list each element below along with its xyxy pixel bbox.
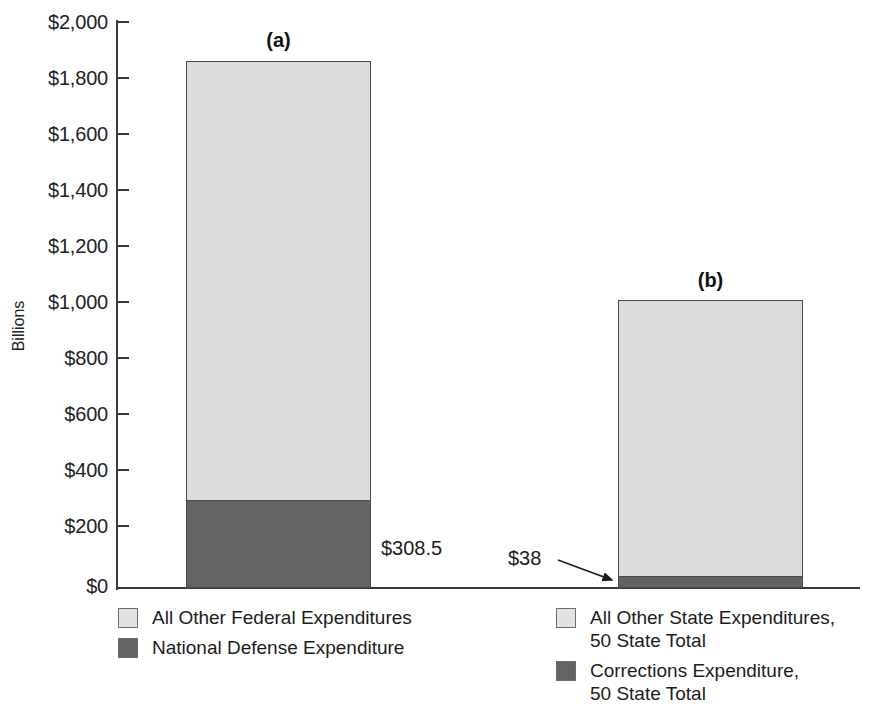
y-axis-line [116,20,118,590]
legend-swatch-light-icon [556,608,576,628]
bar-a-light-segment[interactable] [186,61,371,501]
y-tick-group-1400: $1,400 [0,180,108,200]
legend-item-all-other-federal[interactable]: All Other Federal Expenditures [118,606,518,629]
bar-a-value-label: $308.5 [381,538,442,558]
y-tick-group-2000: $2,000 [0,12,108,32]
y-tick-mark-200 [118,525,129,527]
y-tick-mark-1800 [118,77,129,79]
y-tick-label-1400: $1,400 [8,180,108,200]
legend-item-corrections[interactable]: Corrections Expenditure, 50 State Total [556,659,866,705]
legend-swatch-dark-icon [556,661,576,681]
legend-swatch-dark-icon [118,638,138,658]
bar-a-caption: (a) [186,30,371,50]
y-tick-group-1000: $1,000 [0,292,108,312]
y-tick-mark-2000 [118,21,129,23]
y-tick-label-200: $200 [8,516,108,536]
legend-label-all-other-state: All Other State Expenditures, 50 State T… [590,606,835,652]
y-tick-group-600: $600 [0,404,108,424]
y-tick-group-1800: $1,800 [0,68,108,88]
bar-b-dark-segment[interactable] [618,576,803,588]
chart-figure: Billions $2,000 $1,800 $1,600 $1,400 $1,… [0,0,872,719]
y-tick-mark-1400 [118,189,129,191]
y-tick-group-400: $400 [0,460,108,480]
y-tick-label-1800: $1,800 [8,68,108,88]
y-tick-label-600: $600 [8,404,108,424]
y-tick-group-1200: $1,200 [0,236,108,256]
y-tick-label-800: $800 [8,348,108,368]
legend-label-corrections: Corrections Expenditure, 50 State Total [590,659,799,705]
legend-state: All Other State Expenditures, 50 State T… [556,606,866,712]
y-tick-group-1600: $1,600 [0,124,108,144]
legend-label-national-defense: National Defense Expenditure [152,636,404,659]
bar-a-dark-segment[interactable] [186,500,371,588]
y-tick-label-1000: $1,000 [8,292,108,312]
y-tick-mark-1200 [118,245,129,247]
legend-item-national-defense[interactable]: National Defense Expenditure [118,636,518,659]
y-tick-label-400: $400 [8,460,108,480]
legend-label-all-other-federal: All Other Federal Expenditures [152,606,412,629]
y-tick-mark-800 [118,357,129,359]
y-tick-mark-600 [118,413,129,415]
callout-arrow-icon [556,552,620,586]
legend-item-all-other-state[interactable]: All Other State Expenditures, 50 State T… [556,606,866,652]
bar-b-value-label: $38 [508,548,541,568]
bar-b-light-segment[interactable] [618,300,803,577]
y-tick-mark-1000 [118,301,129,303]
y-tick-group-800: $800 [0,348,108,368]
legend-swatch-light-icon [118,608,138,628]
y-tick-mark-400 [118,469,129,471]
legend-federal: All Other Federal Expenditures National … [118,606,518,666]
y-tick-label-1600: $1,600 [8,124,108,144]
y-tick-group-200: $200 [0,516,108,536]
y-tick-label-0: $0 [8,576,108,596]
y-tick-mark-1600 [118,133,129,135]
y-tick-label-2000: $2,000 [8,12,108,32]
y-tick-label-1200: $1,200 [8,236,108,256]
bar-b-caption: (b) [618,270,803,290]
y-tick-group-0: $0 [0,576,108,596]
